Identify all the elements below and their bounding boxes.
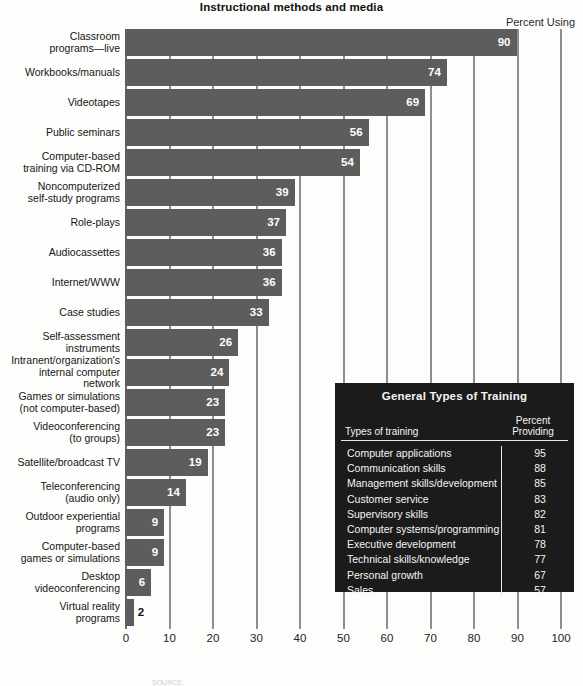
inset-row-name: Management skills/development xyxy=(347,476,497,491)
inset-table-row: Executive development78 xyxy=(341,537,568,552)
bar-label-line: Videoconferencing xyxy=(0,421,120,433)
bar-label: Videotapes xyxy=(0,97,120,109)
bar-row: Classroomprograms—live90 xyxy=(0,29,583,56)
bar-label-line: Public seminars xyxy=(0,127,120,139)
bar-label: Videoconferencing(to groups) xyxy=(0,421,120,444)
inset-table-row: Technical skills/knowledge77 xyxy=(341,552,568,567)
bar-label: Games or simulations(not computer-based) xyxy=(0,391,120,414)
bar-label: Workbooks/manuals xyxy=(0,67,120,79)
bar-value-label: 36 xyxy=(263,269,276,296)
bar-label: Role-plays xyxy=(0,217,120,229)
x-tick-60: 60 xyxy=(381,632,394,644)
bar xyxy=(125,29,517,56)
bar-row: Self-assessmentinstruments26 xyxy=(0,329,583,356)
bar-label: Audiocassettes xyxy=(0,247,120,259)
bar-value-label: 2 xyxy=(138,599,144,626)
inset-table-row: Computer systems/programming81 xyxy=(341,522,568,537)
bar-value-label: 23 xyxy=(206,419,219,446)
bar-label: Teleconferencing(audio only) xyxy=(0,481,120,504)
bar xyxy=(125,89,425,116)
x-tick-80: 80 xyxy=(468,632,481,644)
bar-label-line: Internet/WWW xyxy=(0,277,120,289)
bar-label-line: programs xyxy=(0,523,120,535)
bar-row: Videotapes69 xyxy=(0,89,583,116)
bar-label: Satellite/broadcast TV xyxy=(0,457,120,469)
bar-value-label: 9 xyxy=(152,509,158,536)
inset-col-header-percent: Percent Providing xyxy=(500,415,566,437)
bar-row: Audiocassettes36 xyxy=(0,239,583,266)
bar-label: Desktopvideoconferencing xyxy=(0,571,120,594)
inset-rows: Computer applications95Communication ski… xyxy=(335,446,574,598)
bar-label-line: games or simulations xyxy=(0,553,120,565)
inset-row-value: 78 xyxy=(507,537,573,552)
bar-value-label: 37 xyxy=(267,209,280,236)
inset-row-value: 67 xyxy=(507,568,573,583)
bar-row: Internet/WWW36 xyxy=(0,269,583,296)
x-tick-30: 30 xyxy=(250,632,263,644)
value-axis-label: Percent Using xyxy=(506,16,575,28)
inset-row-name: Customer service xyxy=(347,492,429,507)
inset-table-row: Communication skills88 xyxy=(341,461,568,476)
bar-label: Noncomputerizedself-study programs xyxy=(0,181,120,204)
inset-row-name: Computer applications xyxy=(347,446,451,461)
inset-table-row: Personal growth67 xyxy=(341,568,568,583)
bar xyxy=(125,119,369,146)
bar xyxy=(125,59,447,86)
inset-col-header-types: Types of training xyxy=(345,426,418,437)
inset-row-name: Computer systems/programming xyxy=(347,522,499,537)
bar-value-label: 14 xyxy=(167,479,180,506)
inset-col-header-percent-line1: Percent xyxy=(500,415,566,426)
bar-label-line: (not computer-based) xyxy=(0,403,120,415)
bar-value-label: 26 xyxy=(219,329,232,356)
bar-value-label: 6 xyxy=(139,569,145,596)
x-tick-70: 70 xyxy=(424,632,437,644)
bar-value-label: 54 xyxy=(341,149,354,176)
bar-value-label: 23 xyxy=(206,389,219,416)
inset-row-name: Executive development xyxy=(347,537,456,552)
bar-label-line: Self-assessment xyxy=(0,331,120,343)
bar-value-label: 74 xyxy=(428,59,441,86)
bar-value-label: 69 xyxy=(406,89,419,116)
bar xyxy=(125,509,164,536)
inset-table-row: Management skills/development85 xyxy=(341,476,568,491)
bar-label-line: training via CD-ROM xyxy=(0,163,120,175)
inset-row-name: Technical skills/knowledge xyxy=(347,552,470,567)
inset-row-name: Personal growth xyxy=(347,568,423,583)
bar-label-line: Workbooks/manuals xyxy=(0,67,120,79)
inset-row-value: 85 xyxy=(507,476,573,491)
inset-row-name: Sales xyxy=(347,583,373,598)
bar xyxy=(125,599,134,626)
bar-label: Computer-basedtraining via CD-ROM xyxy=(0,151,120,174)
bar-label-line: Classroom xyxy=(0,31,120,43)
inset-table-row: Computer applications95 xyxy=(341,446,568,461)
bar-label-line: Noncomputerized xyxy=(0,181,120,193)
bar-label-line: Virtual reality xyxy=(0,601,120,613)
inset-row-value: 57 xyxy=(507,583,573,598)
bar-label-line: Outdoor experiential xyxy=(0,511,120,523)
bar-value-label: 39 xyxy=(276,179,289,206)
bar xyxy=(125,269,282,296)
inset-col-header-percent-line2: Providing xyxy=(500,426,566,437)
bar-label-line: Teleconferencing xyxy=(0,481,120,493)
inset-header: Types of training Percent Providing xyxy=(335,406,574,438)
bar-label: Virtual realityprograms xyxy=(0,601,120,624)
bar-value-label: 9 xyxy=(152,539,158,566)
bar-label-line: Audiocassettes xyxy=(0,247,120,259)
inset-row-value: 88 xyxy=(507,461,573,476)
bar-label: Case studies xyxy=(0,307,120,319)
inset-title: General Types of Training xyxy=(335,383,574,402)
bar-label: Intranent/organization'sinternal compute… xyxy=(0,355,120,390)
bar-row: Computer-basedtraining via CD-ROM54 xyxy=(0,149,583,176)
bar-label-line: (to groups) xyxy=(0,433,120,445)
bar-row: Public seminars56 xyxy=(0,119,583,146)
bar-label-line: Computer-based xyxy=(0,151,120,163)
bar-label-line: Desktop xyxy=(0,571,120,583)
inset-row-value: 77 xyxy=(507,552,573,567)
x-tick-40: 40 xyxy=(294,632,307,644)
bar-row: Case studies33 xyxy=(0,299,583,326)
bar-value-label: 56 xyxy=(350,119,363,146)
bar-label: Self-assessmentinstruments xyxy=(0,331,120,354)
inset-table: General Types of Training Types of train… xyxy=(335,383,574,592)
inset-divider xyxy=(341,440,568,441)
